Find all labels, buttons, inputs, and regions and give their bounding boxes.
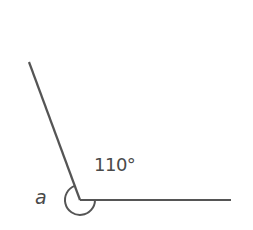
unknown-angle-label: a	[35, 188, 47, 207]
angle-diagram: 110° a	[0, 0, 253, 230]
given-angle-label: 110°	[94, 156, 135, 174]
slanted-ray	[29, 62, 80, 200]
